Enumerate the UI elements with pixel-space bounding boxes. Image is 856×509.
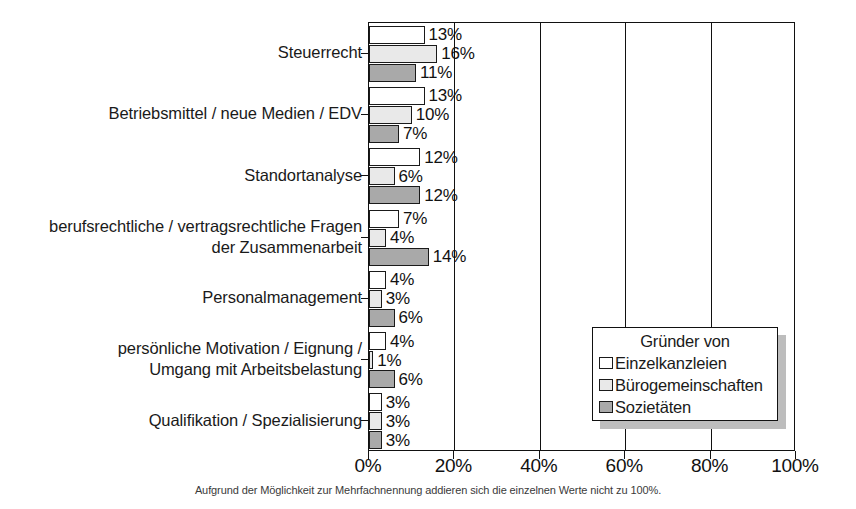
bar-value-label: 3% bbox=[386, 290, 410, 307]
bar-row: 3% bbox=[369, 431, 410, 449]
bar-0-6[interactable] bbox=[369, 393, 382, 411]
bar-value-label: 6% bbox=[399, 168, 423, 185]
bar-0-5[interactable] bbox=[369, 332, 386, 350]
bar-value-label: 3% bbox=[386, 413, 410, 430]
bar-row: 3% bbox=[369, 290, 410, 308]
bar-row: 4% bbox=[369, 332, 414, 350]
y-axis-label-6: Qualifikation / Spezialisierung bbox=[0, 410, 362, 431]
y-axis-label-line: Qualifikation / Spezialisierung bbox=[0, 410, 362, 431]
bar-row: 14% bbox=[369, 248, 466, 266]
y-axis-label-5: persönliche Motivation / Eignung /Umgang… bbox=[0, 338, 362, 380]
bar-value-label: 1% bbox=[377, 352, 401, 369]
y-axis-label-4: Personalmanagement bbox=[0, 287, 362, 308]
y-axis-label-line: Steuerrecht bbox=[0, 42, 362, 63]
bar-value-label: 7% bbox=[403, 210, 427, 227]
legend-item-buerogemeinschaften[interactable]: Bürogemeinschaften bbox=[599, 374, 771, 396]
bar-row: 6% bbox=[369, 167, 423, 185]
y-axis-label-line: Standortanalyse bbox=[0, 165, 362, 186]
bar-row: 16% bbox=[369, 45, 475, 63]
bar-row: 3% bbox=[369, 412, 410, 430]
bar-value-label: 13% bbox=[429, 87, 462, 104]
gridline-40 bbox=[540, 23, 541, 450]
bar-2-2[interactable] bbox=[369, 186, 420, 204]
x-axis-label-40: 40% bbox=[520, 455, 557, 477]
bar-value-label: 16% bbox=[441, 45, 474, 62]
bar-row: 4% bbox=[369, 271, 414, 289]
y-axis-label-3: berufsrechtliche / vertragsrechtliche Fr… bbox=[0, 216, 362, 258]
y-axis-label-line: Personalmanagement bbox=[0, 287, 362, 308]
y-axis-label-line: der Zusammenarbeit bbox=[0, 237, 362, 258]
bar-1-0[interactable] bbox=[369, 45, 437, 63]
bar-value-label: 14% bbox=[433, 248, 466, 265]
x-axis-label-80: 80% bbox=[691, 455, 728, 477]
bar-1-1[interactable] bbox=[369, 106, 412, 124]
bar-1-5[interactable] bbox=[369, 351, 373, 369]
bar-2-1[interactable] bbox=[369, 125, 399, 143]
x-axis-label-100: 100% bbox=[771, 455, 818, 477]
footnote: Aufgrund der Möglichkeit zur Mehrfachnen… bbox=[0, 484, 856, 496]
bar-row: 6% bbox=[369, 370, 423, 388]
bar-row: 7% bbox=[369, 210, 427, 228]
bar-value-label: 12% bbox=[424, 187, 457, 204]
bar-row: 3% bbox=[369, 393, 410, 411]
legend-label-einzelkanzleien: Einzelkanzleien bbox=[615, 352, 727, 374]
x-axis-label-20: 20% bbox=[435, 455, 472, 477]
legend-label-sozietaeten: Sozietäten bbox=[615, 396, 691, 418]
bar-row: 12% bbox=[369, 148, 458, 166]
bar-2-0[interactable] bbox=[369, 64, 416, 82]
bar-value-label: 6% bbox=[399, 309, 423, 326]
x-axis-label-0: 0% bbox=[355, 455, 382, 477]
y-axis-label-line: Umgang mit Arbeitsbelastung bbox=[0, 359, 362, 380]
bar-1-2[interactable] bbox=[369, 167, 395, 185]
legend-title: Gründer von bbox=[599, 331, 771, 352]
y-axis-label-line: berufsrechtliche / vertragsrechtliche Fr… bbox=[0, 216, 362, 237]
legend-swatch-icon-sozietaeten bbox=[599, 401, 613, 413]
bar-row: 10% bbox=[369, 106, 449, 124]
bar-value-label: 6% bbox=[399, 371, 423, 388]
bar-2-6[interactable] bbox=[369, 431, 382, 449]
bar-row: 1% bbox=[369, 351, 401, 369]
bar-row: 12% bbox=[369, 186, 458, 204]
bar-2-5[interactable] bbox=[369, 370, 395, 388]
bar-value-label: 4% bbox=[390, 229, 414, 246]
bar-0-3[interactable] bbox=[369, 210, 399, 228]
bar-value-label: 4% bbox=[390, 333, 414, 350]
legend-label-buerogemeinschaften: Bürogemeinschaften bbox=[615, 374, 763, 396]
bar-1-6[interactable] bbox=[369, 412, 382, 430]
bar-value-label: 7% bbox=[403, 125, 427, 142]
legend-swatch-icon-einzelkanzleien bbox=[599, 357, 613, 369]
bar-2-3[interactable] bbox=[369, 248, 429, 266]
bar-0-1[interactable] bbox=[369, 87, 425, 105]
bar-0-4[interactable] bbox=[369, 271, 386, 289]
bar-row: 6% bbox=[369, 309, 423, 327]
bar-row: 7% bbox=[369, 125, 427, 143]
bar-2-4[interactable] bbox=[369, 309, 395, 327]
y-axis-label-0: Steuerrecht bbox=[0, 42, 362, 63]
y-axis-label-line: persönliche Motivation / Eignung / bbox=[0, 338, 362, 359]
legend: Gründer von Einzelkanzleien Bürogemeinsc… bbox=[592, 327, 778, 421]
bar-chart: SteuerrechtBetriebsmittel / neue Medien … bbox=[0, 0, 856, 509]
bar-value-label: 4% bbox=[390, 271, 414, 288]
bar-value-label: 10% bbox=[416, 106, 449, 123]
y-axis-label-2: Standortanalyse bbox=[0, 165, 362, 186]
bar-1-3[interactable] bbox=[369, 229, 386, 247]
bar-value-label: 13% bbox=[429, 26, 462, 43]
bar-value-label: 12% bbox=[424, 149, 457, 166]
bar-1-4[interactable] bbox=[369, 290, 382, 308]
x-axis-label-60: 60% bbox=[606, 455, 643, 477]
bar-row: 13% bbox=[369, 87, 462, 105]
bar-value-label: 11% bbox=[420, 64, 452, 81]
bar-row: 13% bbox=[369, 26, 462, 44]
bar-row: 11% bbox=[369, 64, 452, 82]
legend-item-einzelkanzleien[interactable]: Einzelkanzleien bbox=[599, 352, 771, 374]
legend-item-sozietaeten[interactable]: Sozietäten bbox=[599, 396, 771, 418]
bar-value-label: 3% bbox=[386, 394, 410, 411]
bar-value-label: 3% bbox=[386, 432, 410, 449]
legend-swatch-icon-buerogemeinschaften bbox=[599, 379, 613, 391]
bar-row: 4% bbox=[369, 229, 414, 247]
y-axis-label-line: Betriebsmittel / neue Medien / EDV bbox=[0, 103, 362, 124]
bar-0-0[interactable] bbox=[369, 26, 425, 44]
bar-0-2[interactable] bbox=[369, 148, 420, 166]
y-axis-label-1: Betriebsmittel / neue Medien / EDV bbox=[0, 103, 362, 124]
